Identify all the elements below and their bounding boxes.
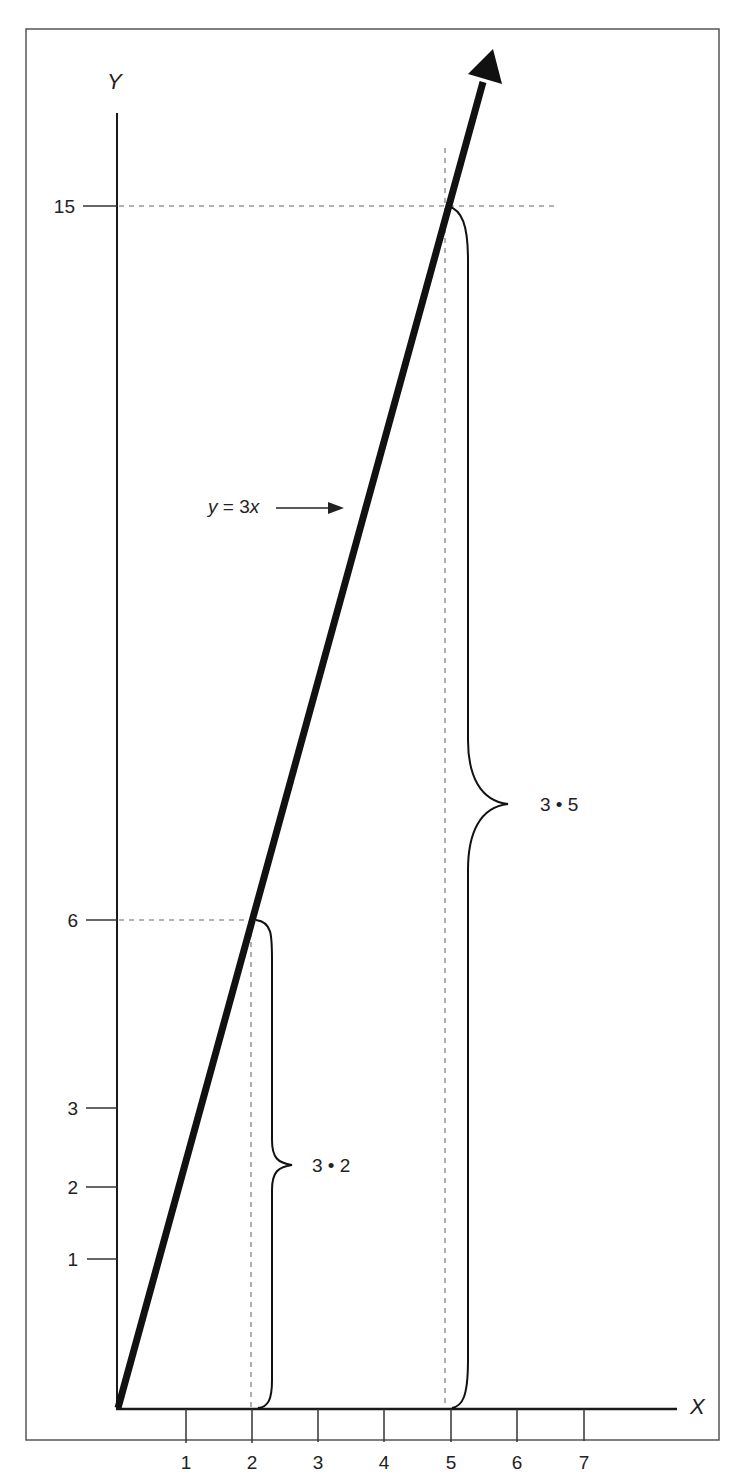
line-arrowhead-icon: [468, 49, 502, 84]
chart-figure: Y X 15 6 3 2 1 1 2 3 4 5 6 7 y = 3x 3 • …: [0, 0, 747, 1472]
y-tick-label-2: 2: [38, 1178, 78, 1197]
brace-small: [256, 920, 292, 1408]
x-tick-label-6: 6: [502, 1453, 532, 1472]
y-tick-label-3: 3: [38, 1099, 78, 1118]
x-axis-title: X: [690, 1396, 705, 1418]
y-tick-label-1: 1: [38, 1250, 78, 1269]
x-tick-label-2: 2: [237, 1453, 267, 1472]
label-arrow-head-icon: [328, 502, 344, 514]
x-ticks: [186, 1409, 584, 1443]
y-tick-label-6: 6: [38, 911, 78, 930]
line-label: y = 3x: [208, 497, 259, 516]
x-tick-label-3: 3: [303, 1453, 333, 1472]
y-ticks: [83, 206, 117, 1259]
brace-small-label: 3 • 2: [312, 1156, 350, 1175]
line-label-lhs: y: [208, 496, 218, 517]
y-axis-title: Y: [107, 71, 122, 93]
x-tick-label-5: 5: [436, 1453, 466, 1472]
guide-lines: [119, 148, 556, 1407]
brace-large: [448, 206, 508, 1408]
line-label-eq: = 3: [218, 496, 250, 517]
x-tick-label-7: 7: [569, 1453, 599, 1472]
chart-frame: [26, 29, 719, 1440]
line-y-equals-3x: [118, 82, 483, 1408]
y-tick-label-15: 15: [35, 197, 75, 216]
brace-large-label: 3 • 5: [540, 795, 578, 814]
chart-canvas: [0, 0, 747, 1472]
x-tick-label-1: 1: [171, 1453, 201, 1472]
x-tick-label-4: 4: [369, 1453, 399, 1472]
line-label-var: x: [250, 496, 260, 517]
